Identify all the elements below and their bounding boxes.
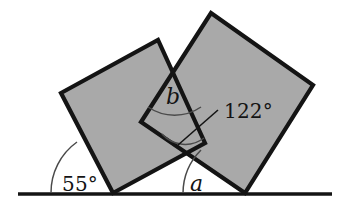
angle-label-b: b (166, 84, 180, 109)
geometry-figure: 55° 122° a b (0, 0, 348, 211)
angle-label-a: a (190, 171, 203, 196)
angle-label-122: 122° (224, 99, 273, 123)
angle-label-55: 55° (62, 172, 98, 196)
geometry-diagram-svg: 55° 122° a b (0, 0, 348, 211)
